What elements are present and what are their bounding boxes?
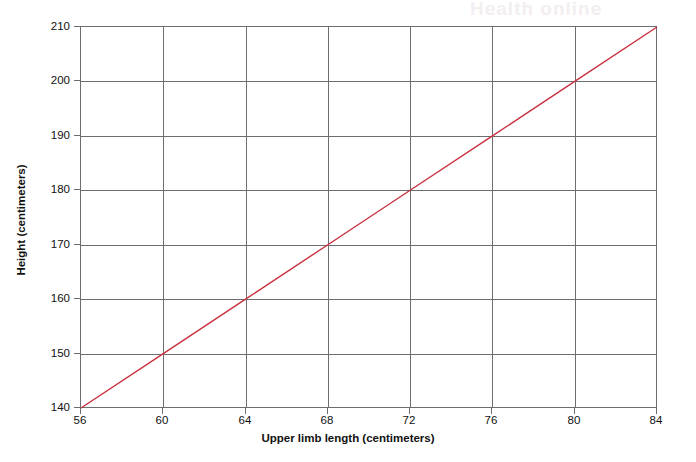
watermark-text: Health online	[470, 0, 680, 20]
x-tick-label: 68	[307, 414, 347, 426]
y-tick-mark	[74, 80, 80, 81]
y-tick-label: 190	[34, 129, 70, 141]
x-axis-title: Upper limb length (centimeters)	[0, 432, 696, 444]
y-tick-label: 200	[34, 74, 70, 86]
y-tick-label: 150	[34, 347, 70, 359]
chart-figure: Health online 140150160170180190200210 5…	[0, 0, 696, 462]
x-tick-label: 72	[389, 414, 429, 426]
y-tick-mark	[74, 189, 80, 190]
y-tick-label: 210	[34, 20, 70, 32]
y-tick-mark	[74, 244, 80, 245]
y-tick-mark	[74, 26, 80, 27]
y-tick-label: 140	[34, 401, 70, 413]
x-tick-label: 80	[554, 414, 594, 426]
series-line	[81, 27, 657, 408]
x-tick-label: 56	[60, 414, 100, 426]
y-tick-mark	[74, 353, 80, 354]
x-tick-label: 84	[636, 414, 676, 426]
y-tick-label: 180	[34, 183, 70, 195]
y-axis-title: Height (centimeters)	[12, 0, 30, 440]
data-series-line	[81, 27, 658, 409]
x-tick-label: 76	[471, 414, 511, 426]
y-tick-label: 170	[34, 238, 70, 250]
y-tick-mark	[74, 298, 80, 299]
x-tick-label: 60	[142, 414, 182, 426]
y-tick-mark	[74, 135, 80, 136]
y-tick-label: 160	[34, 292, 70, 304]
plot-area	[80, 26, 657, 408]
y-axis-title-text: Height (centimeters)	[15, 164, 27, 275]
x-tick-label: 64	[225, 414, 265, 426]
